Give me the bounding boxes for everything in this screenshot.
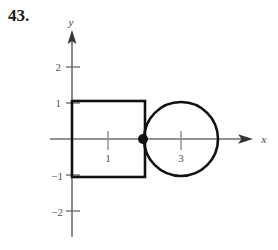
figure-page: 43. y x 2 1 −1: [0, 0, 278, 250]
y-tick-label-2: 2: [56, 61, 62, 73]
x-tick-label-3: 3: [178, 152, 184, 164]
y-axis-label: y: [68, 16, 74, 28]
x-axis-label: x: [261, 133, 267, 145]
coordinate-figure: y x 2 1 −1 −2 1 3: [0, 0, 278, 250]
y-tick-label-1: 1: [56, 97, 62, 109]
y-tick-label-neg2: −2: [51, 206, 63, 218]
axis-group: [50, 30, 253, 237]
x-tick-label-1: 1: [105, 152, 111, 164]
tangent-point-marker: [138, 134, 148, 144]
y-tick-label-neg1: −1: [51, 170, 63, 182]
